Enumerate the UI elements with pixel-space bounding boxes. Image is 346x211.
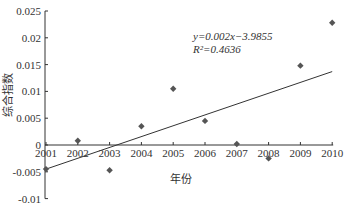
scatter-chart: 0.0250.020.0150.010.0050-0.005-0.0120012… bbox=[0, 0, 346, 211]
y-tick-label: -0.005 bbox=[13, 166, 42, 178]
y-tick-label: 0.015 bbox=[16, 59, 41, 71]
x-tick-label: 2005 bbox=[162, 147, 185, 159]
r-squared-label: R²=0.4636 bbox=[192, 43, 241, 55]
y-tick-label: 0.02 bbox=[22, 32, 41, 44]
x-tick-label: 2006 bbox=[194, 147, 217, 159]
y-tick-label: 0.025 bbox=[16, 5, 41, 17]
y-tick-label: 0.005 bbox=[16, 112, 41, 124]
trendline-equation: y=0.002x−3.9855 bbox=[192, 30, 273, 42]
data-point bbox=[202, 118, 208, 124]
data-point bbox=[106, 167, 112, 173]
x-tick-label: 2001 bbox=[35, 147, 57, 159]
x-tick-label: 2007 bbox=[226, 147, 249, 159]
y-tick-label: -0.01 bbox=[18, 193, 41, 205]
x-axis-title: 年份 bbox=[170, 172, 192, 185]
data-point bbox=[75, 138, 81, 144]
x-tick-label: 2003 bbox=[99, 147, 122, 159]
data-point bbox=[138, 123, 144, 129]
data-point bbox=[329, 20, 335, 26]
x-tick-label: 2002 bbox=[67, 147, 89, 159]
x-tick-label: 2010 bbox=[321, 147, 344, 159]
x-tick-label: 2009 bbox=[289, 147, 312, 159]
data-point bbox=[170, 86, 176, 92]
y-tick-label: 0.01 bbox=[22, 85, 41, 97]
x-tick-label: 2004 bbox=[130, 147, 153, 159]
data-point bbox=[43, 166, 49, 172]
data-point bbox=[297, 62, 303, 68]
y-axis-title: 综合指数 bbox=[1, 73, 14, 117]
